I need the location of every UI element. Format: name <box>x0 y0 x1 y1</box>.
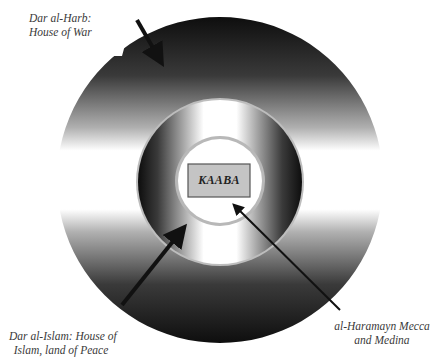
label-haramayn-line1: al-Haramayn Mecca <box>331 319 432 333</box>
label-al-haramayn: al-Haramayn Mecca and Medina <box>331 319 432 347</box>
label-haramayn-line2: and Medina <box>331 333 432 347</box>
label-islam-line1: Dar al-Islam: House of <box>9 329 113 343</box>
label-harb-line2: House of War <box>29 25 92 39</box>
kaaba-label: KAABA <box>188 164 250 197</box>
label-islam-line2: Islam, land of Peace <box>9 343 113 357</box>
label-harb-line1: Dar al-Harb: <box>29 11 92 25</box>
label-dar-al-harb: Dar al-Harb: House of War <box>29 11 92 39</box>
label-dar-al-islam: Dar al-Islam: House of Islam, land of Pe… <box>9 329 113 357</box>
